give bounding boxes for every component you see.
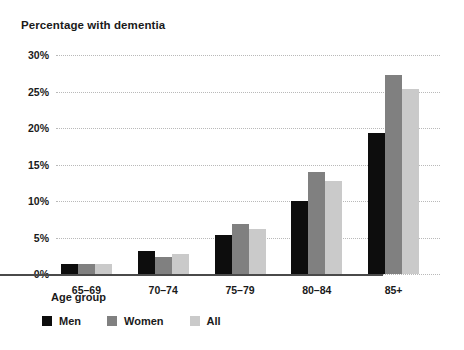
x-axis-tick-label: 70–74: [149, 284, 178, 296]
bar-women-70–74: [155, 257, 172, 274]
y-axis-tick-label: 25%: [28, 86, 49, 97]
bar-all-65–69: [95, 264, 112, 274]
chart-figure: Percentage with dementia 0%5%10%15%20%25…: [0, 0, 464, 350]
x-axis-tick-label: 75–79: [225, 284, 254, 296]
bar-women-75–79: [232, 224, 249, 274]
legend-item-all: All: [190, 315, 221, 327]
x-axis-tick-label: 85+: [385, 284, 403, 296]
y-axis-tick-label: 20%: [28, 123, 49, 134]
bar-group-bars: [291, 55, 342, 274]
chart-title: Percentage with dementia: [21, 19, 165, 31]
legend-swatch-icon: [107, 316, 117, 326]
y-axis-tick-label: 15%: [28, 159, 49, 170]
legend-label: Men: [59, 315, 81, 327]
bar-group: 70–74: [138, 55, 189, 274]
bar-group-bars: [368, 55, 419, 274]
bar-all-75–79: [249, 229, 266, 274]
plot-area: 0%5%10%15%20%25%30%65–6970–7475–7980–848…: [56, 55, 440, 274]
bar-all-85+: [402, 89, 419, 274]
bar-group-bars: [138, 55, 189, 274]
bar-group: 65–69: [61, 55, 112, 274]
legend-swatch-icon: [190, 316, 200, 326]
legend-swatch-icon: [42, 316, 52, 326]
y-axis-tick-label: 10%: [28, 196, 49, 207]
bar-all-70–74: [172, 254, 189, 274]
x-axis-caption: Age group: [51, 291, 106, 303]
bar-women-85+: [385, 75, 402, 274]
x-axis-tick-label: 80–84: [302, 284, 331, 296]
legend-label: All: [207, 315, 221, 327]
bar-women-65–69: [78, 264, 95, 274]
bar-all-80–84: [325, 181, 342, 274]
bar-group-bars: [215, 55, 266, 274]
bar-men-65–69: [61, 264, 78, 274]
legend-item-women: Women: [107, 315, 164, 327]
x-axis-line: [0, 274, 383, 276]
bar-men-80–84: [291, 201, 308, 274]
legend-label: Women: [124, 315, 164, 327]
y-axis-tick-label: 30%: [28, 50, 49, 61]
bar-women-80–84: [308, 172, 325, 274]
bar-men-70–74: [138, 251, 155, 274]
bar-group-bars: [61, 55, 112, 274]
bar-group: 75–79: [215, 55, 266, 274]
y-axis-tick-label: 5%: [34, 232, 49, 243]
bar-men-85+: [368, 133, 385, 274]
bar-men-75–79: [215, 235, 232, 274]
chart-legend: MenWomenAll: [42, 315, 247, 327]
bar-group: 85+: [368, 55, 419, 274]
bar-group: 80–84: [291, 55, 342, 274]
legend-item-men: Men: [42, 315, 81, 327]
